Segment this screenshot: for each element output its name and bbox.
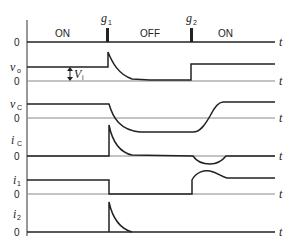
time-axis-label: t — [279, 35, 283, 49]
state-on-2: ON — [218, 28, 233, 39]
ic-sub: C — [17, 140, 22, 147]
ic-trace: i C 0 t — [11, 125, 283, 164]
state-off: OFF — [140, 28, 160, 39]
i2-trace: i 2 0 t — [13, 202, 283, 239]
time-axis-label: t — [279, 187, 283, 201]
zero-label: 0 — [14, 76, 20, 87]
g2-pulse — [190, 28, 193, 42]
i1-trace: i 1 0 t — [13, 171, 283, 201]
g1-label: g — [101, 11, 107, 25]
i1-waveform — [27, 171, 275, 194]
time-axis-label: t — [279, 149, 283, 163]
time-axis-label: t — [279, 111, 283, 125]
state-on-1: ON — [55, 28, 70, 39]
g1-sub: 1 — [108, 19, 112, 26]
vc-sub: C — [17, 104, 22, 111]
timing-diagram: 0 t g 1 g 2 ON OFF ON v o 0 t V i v C 0 … — [0, 0, 296, 248]
vi-arrow-head-down — [67, 77, 73, 81]
vo-sub: o — [17, 67, 21, 74]
vc-waveform — [27, 102, 275, 132]
g1-pulse — [106, 28, 109, 42]
vc-label: v — [10, 97, 16, 111]
zero-label: 0 — [14, 113, 20, 124]
vi-sub: i — [82, 74, 84, 81]
vo-trace: v o 0 t V i — [10, 52, 283, 88]
g2-sub: 2 — [193, 19, 197, 26]
i2-sub: 2 — [17, 214, 21, 221]
gate-trace: 0 t g 1 g 2 ON OFF ON — [14, 11, 283, 49]
zero-label: 0 — [14, 151, 20, 162]
zero-label: 0 — [14, 189, 20, 200]
i2-label: i — [13, 207, 16, 221]
zero-label: 0 — [14, 37, 20, 48]
zero-label: 0 — [14, 227, 20, 238]
time-axis-label: t — [279, 74, 283, 88]
i2-waveform — [109, 202, 132, 232]
vo-label: v — [10, 60, 16, 74]
time-axis-label: t — [279, 225, 283, 239]
i1-label: i — [13, 173, 16, 187]
i1-sub: 1 — [17, 180, 21, 187]
ic-waveform — [27, 125, 275, 164]
ic-label: i — [11, 133, 14, 147]
vc-trace: v C 0 t — [10, 97, 283, 132]
g2-label: g — [186, 11, 192, 25]
vo-waveform — [27, 52, 275, 80]
